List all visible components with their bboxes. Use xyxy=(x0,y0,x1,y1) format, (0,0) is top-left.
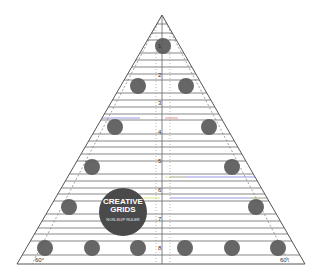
grip-dot xyxy=(107,119,123,135)
grip-dot xyxy=(84,159,100,175)
grip-dot xyxy=(224,159,240,175)
scale-number: 4 xyxy=(158,129,161,135)
grip-dot xyxy=(177,240,193,256)
brand-line2: GRIDS xyxy=(103,206,143,214)
scale-number: 2 xyxy=(158,72,161,78)
brand-logo: CREATIVE GRIDS xyxy=(103,198,143,214)
scale-number: 6 xyxy=(158,187,161,193)
scale-number: 8 xyxy=(158,245,161,251)
product-subtitle: NON-SLIP RULER xyxy=(101,217,145,222)
grip-dot xyxy=(130,78,146,94)
triangle-ruler xyxy=(0,0,322,278)
angle-label-left: 60° xyxy=(35,257,44,263)
grip-dot xyxy=(37,240,53,256)
angle-label-right: 60° xyxy=(280,257,289,263)
scale-number: 1 xyxy=(158,43,161,49)
grip-dot xyxy=(178,78,194,94)
grip-dot xyxy=(201,119,217,135)
grip-dot xyxy=(61,199,77,215)
grip-dot xyxy=(84,240,100,256)
grip-dot xyxy=(130,240,146,256)
scale-number: 7 xyxy=(158,216,161,222)
scale-number: 3 xyxy=(158,100,161,106)
grip-dot xyxy=(248,199,264,215)
scale-number: 5 xyxy=(158,158,161,164)
grip-dot xyxy=(224,240,240,256)
grip-dot xyxy=(270,240,286,256)
